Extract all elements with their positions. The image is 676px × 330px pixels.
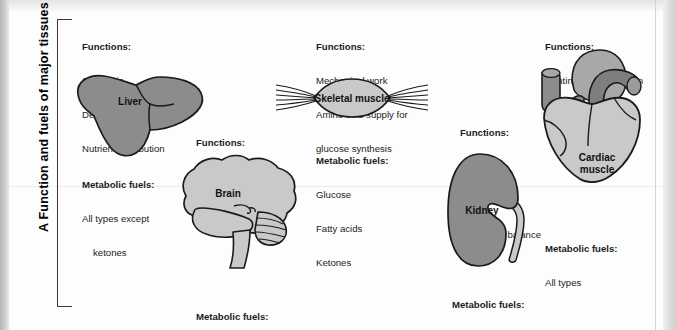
- brain-functions-heading: Functions:: [196, 137, 267, 148]
- cardiac-muscle-fuels-block: Metabolic fuels: All types: [545, 220, 618, 311]
- liver-illustration: [70, 60, 210, 160]
- scan-edge-right: [663, 0, 676, 330]
- liver-fuels-block: Metabolic fuels: All types except ketone…: [82, 156, 155, 281]
- liver-fuels-heading: Metabolic fuels:: [82, 179, 155, 190]
- brain-fuels-heading: Metabolic fuels:: [196, 311, 269, 322]
- skeletal-muscle-fuels-block: Metabolic fuels: Glucose Fatty acids Ket…: [316, 132, 389, 292]
- skeletal-muscle-fuel-2: Fatty acids: [316, 223, 389, 234]
- liver-fuel-2: ketones: [82, 247, 155, 258]
- skeletal-muscle-fuel-3: Ketones: [316, 257, 389, 268]
- skeletal-muscle-fuels-heading: Metabolic fuels:: [316, 155, 389, 166]
- kidney-fuels-heading: Metabolic fuels:: [452, 299, 525, 310]
- skeletal-muscle-fuel-1: Glucose: [316, 189, 389, 200]
- cardiac-muscle-fuel-1: All types: [545, 277, 618, 288]
- skeletal-muscle-illustration: [276, 76, 428, 120]
- brain-fuels-block: Metabolic fuels: Glucose Ketones: [196, 288, 269, 330]
- cardiac-muscle-illustration: [528, 46, 652, 188]
- figure-panel: A Function and fuels of major tissues Fu…: [0, 0, 676, 330]
- brain-illustration: [176, 150, 304, 274]
- liver-functions-heading: Functions:: [82, 41, 165, 52]
- scan-edge-top: [9, 0, 663, 12]
- kidney-fuels-block: Metabolic fuels: Fatty acids Ketones Lac…: [452, 276, 525, 330]
- scan-edge-left: [0, 0, 9, 330]
- panel-title: A Function and fuels of major tissues: [37, 0, 51, 257]
- page-rule-right: [655, 0, 656, 330]
- cardiac-muscle-fuels-heading: Metabolic fuels:: [545, 243, 618, 254]
- skeletal-muscle-functions-heading: Functions:: [316, 41, 408, 52]
- liver-fuel-1: All types except: [82, 213, 155, 224]
